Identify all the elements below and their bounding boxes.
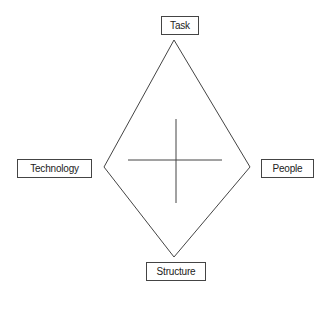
node-people: People (261, 159, 314, 178)
node-technology: Technology (17, 159, 92, 178)
node-structure: Structure (146, 262, 206, 281)
diamond-shape (104, 40, 250, 257)
node-task: Task (161, 16, 199, 35)
